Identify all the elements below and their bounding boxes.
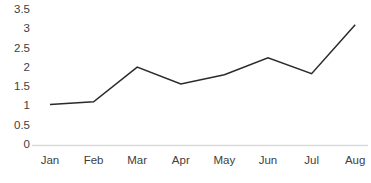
x-tick-label: Mar	[127, 155, 147, 167]
x-tick-label: Apr	[172, 155, 190, 167]
x-tick-label: Feb	[84, 155, 104, 167]
x-tick-label: Aug	[345, 155, 365, 167]
x-tick-label: Jul	[304, 155, 319, 167]
x-tick-label: May	[214, 155, 236, 167]
line-chart: 00.511.522.533.5 JanFebMarAprMayJunJulAu…	[0, 0, 371, 183]
x-tick-label: Jun	[259, 155, 278, 167]
x-axis: JanFebMarAprMayJunJulAug	[0, 0, 371, 183]
x-tick-label: Jan	[41, 155, 60, 167]
